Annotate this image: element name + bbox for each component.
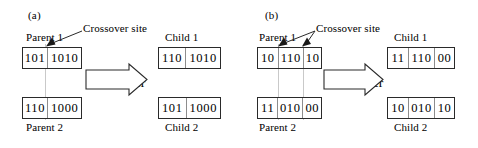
segment: 00 — [302, 98, 321, 118]
chromosome-parent-2-b: 11 010 00 — [257, 97, 322, 119]
segment: 110 — [159, 48, 185, 68]
panel-label-a: (a) — [28, 9, 41, 21]
crossover-diagram: (a) Parent 1 101 1010 110 1000 Parent 2 … — [0, 0, 478, 148]
chromosome-parent-1-b: 10 110 10 — [257, 47, 322, 69]
caption-child-2-a: Child 2 — [165, 121, 198, 133]
chromosome-child-2-b: 10 010 10 — [387, 97, 455, 119]
segment: 1000 — [47, 98, 81, 118]
crossover-operator-label-b: Crossover — [327, 75, 384, 91]
chromosome-parent-1-a: 101 1010 — [22, 47, 82, 69]
panel-single-point-crossover: (a) Parent 1 101 1010 110 1000 Parent 2 … — [0, 0, 239, 148]
segment: 11 — [258, 98, 277, 118]
caption-child-1-b: Child 1 — [394, 31, 427, 43]
segment: 110 — [408, 48, 434, 68]
segment: 010 — [408, 98, 434, 118]
chromosome-parent-2-a: 110 1000 — [22, 97, 82, 119]
chromosome-child-2-a: 101 1000 — [158, 97, 221, 119]
segment: 10 — [303, 48, 322, 68]
chromosome-child-1-b: 11 110 00 — [387, 47, 455, 69]
segment: 010 — [277, 98, 302, 118]
segment: 10 — [434, 98, 454, 118]
caption-parent-1-b: Parent 1 — [259, 31, 296, 43]
caption-parent-1-a: Parent 1 — [26, 31, 63, 43]
caption-child-2-b: Child 2 — [394, 121, 427, 133]
panel-two-point-crossover: (b) Parent 1 10 110 10 11 010 00 Parent … — [239, 0, 478, 148]
segment: 00 — [434, 48, 454, 68]
caption-parent-2-a: Parent 2 — [26, 121, 63, 133]
segment: 11 — [388, 48, 408, 68]
segment: 110 — [23, 98, 47, 118]
segment: 1000 — [186, 98, 220, 118]
segment: 1010 — [185, 48, 220, 68]
crossover-operator-label-a: Crossover — [89, 75, 146, 91]
caption-parent-2-b: Parent 2 — [259, 121, 296, 133]
chromosome-child-1-a: 110 1010 — [158, 47, 221, 69]
crossover-site-label-a: Crossover site — [83, 22, 147, 34]
crossover-site-pointer-line-b-2 — [306, 31, 315, 44]
crossover-site-label-b: Crossover site — [316, 22, 380, 34]
segment: 101 — [23, 48, 47, 68]
segment: 10 — [388, 98, 408, 118]
segment: 1010 — [47, 48, 81, 68]
segment: 10 — [258, 48, 278, 68]
segment: 101 — [159, 98, 186, 118]
caption-child-1-a: Child 1 — [165, 31, 198, 43]
segment: 110 — [278, 48, 303, 68]
panel-label-b: (b) — [265, 9, 278, 21]
